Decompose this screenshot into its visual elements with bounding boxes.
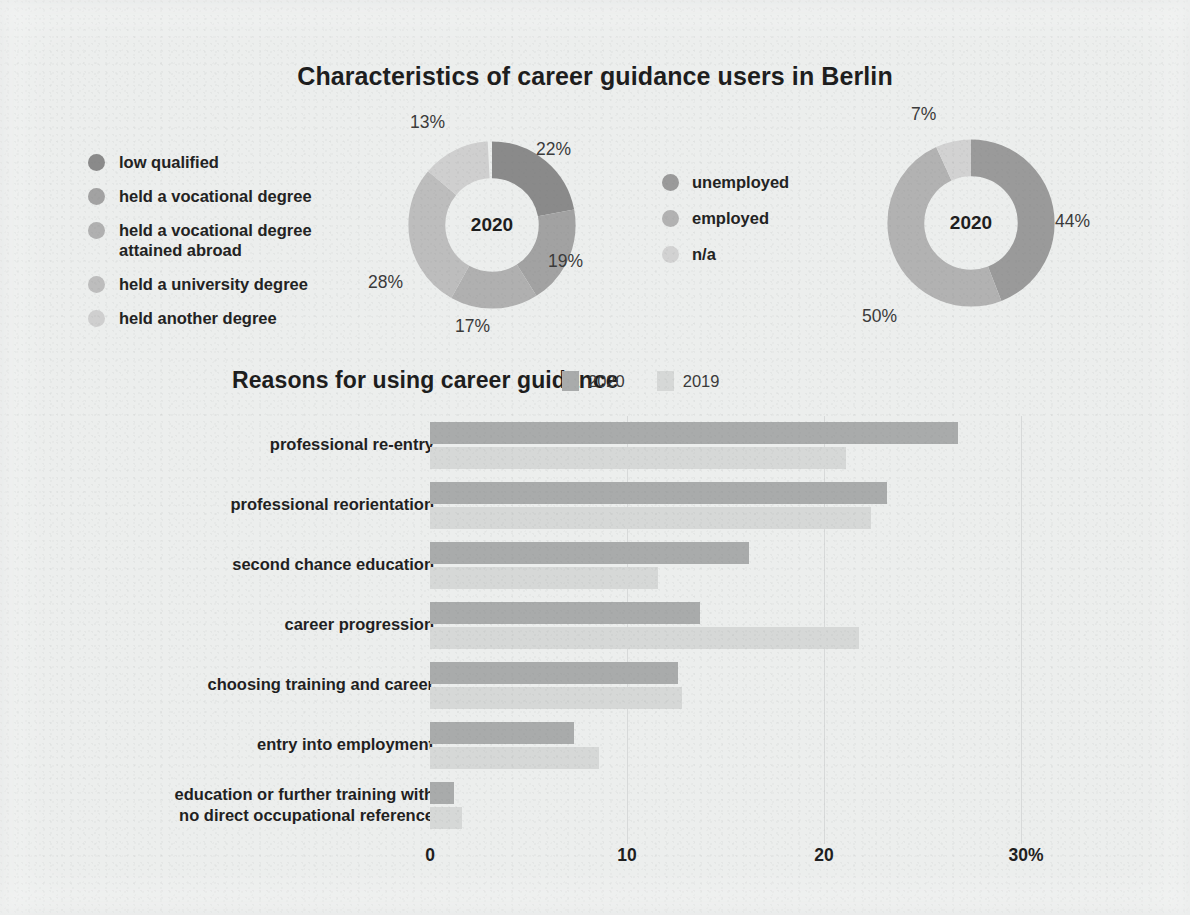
x-axis-tick-30: 30%: [1008, 845, 1043, 866]
legend-swatch-icon: [662, 210, 679, 227]
bar-2020: [430, 482, 887, 504]
donut-value-low-qualified: 22%: [536, 139, 571, 160]
bar-legend-label: 2019: [683, 372, 720, 391]
legend-swatch-icon: [662, 174, 679, 191]
bar-legend-label: 2020: [588, 372, 625, 391]
legend-swatch-icon: [662, 246, 679, 263]
legend-item-label: held a vocational degree attained abroad: [119, 220, 378, 260]
bar-2019: [430, 567, 658, 589]
bar-category-label: second chance education: [14, 554, 434, 575]
x-axis-tick-0: 0: [425, 845, 435, 866]
donut-value-vocational-degree: 19%: [548, 251, 583, 272]
bar-category-label: career progression: [14, 614, 434, 635]
legend-swatch-icon: [88, 154, 105, 171]
bar-2019: [430, 627, 859, 649]
bar-category-label-text: second chance education: [232, 555, 434, 573]
donut-center-year-label: 2020: [406, 214, 578, 236]
bar-2020: [430, 782, 454, 804]
legend-swatch-icon: [657, 371, 674, 391]
bar-2020: [430, 422, 958, 444]
legend-item-label: employed: [692, 208, 769, 228]
donut-center-year-label: 2020: [885, 212, 1057, 234]
bar-category-label-text-line2: no direct occupational reference: [179, 806, 434, 824]
legend-item-another-degree: held another degree: [88, 308, 378, 328]
legend-item-employed: employed: [662, 208, 862, 228]
bar-category-label: education or further training with no di…: [14, 784, 434, 826]
bar-legend-item-2019: 2019: [657, 371, 720, 391]
x-axis-tick-10: 10: [617, 845, 636, 866]
donut-chart-qualification: 2020: [406, 139, 578, 311]
donut-value-another-degree: 13%: [410, 112, 445, 133]
bar-2019: [430, 687, 682, 709]
x-axis-tick-20: 20: [814, 845, 833, 866]
legend-employment-status: unemployed employed n/a: [662, 172, 862, 280]
bar-2020: [430, 602, 700, 624]
gridline-30: [1021, 416, 1022, 844]
bar-2020: [430, 662, 678, 684]
legend-item-low-qualified: low qualified: [88, 152, 378, 172]
legend-swatch-icon: [88, 310, 105, 327]
legend-item-label: held another degree: [119, 308, 277, 328]
legend-item-vocational-degree-abroad: held a vocational degree attained abroad: [88, 220, 378, 260]
legend-item-label: held a vocational degree: [119, 186, 312, 206]
bar-2019: [430, 747, 599, 769]
bar-2020: [430, 542, 749, 564]
donut-value-na: 7%: [911, 104, 936, 125]
legend-item-na: n/a: [662, 244, 862, 264]
legend-item-university-degree: held a university degree: [88, 274, 378, 294]
legend-swatch-icon: [88, 276, 105, 293]
donut-value-vocational-degree-abroad: 17%: [455, 316, 490, 337]
bar-category-label-text: professional re-entry: [270, 435, 434, 453]
bar-chart-title: Reasons for using career guidance: [232, 367, 619, 394]
legend-qualification: low qualified held a vocational degree h…: [88, 152, 378, 342]
bar-2019: [430, 807, 462, 829]
bar-category-label-text: professional reorientation: [230, 495, 434, 513]
donut-value-university-degree: 28%: [368, 272, 403, 293]
bar-category-label-text: career progression: [285, 615, 434, 633]
bar-category-label: choosing training and career: [14, 674, 434, 695]
legend-item-unemployed: unemployed: [662, 172, 862, 192]
legend-item-label: low qualified: [119, 152, 219, 172]
bar-category-label-text: choosing training and career: [208, 675, 434, 693]
bar-2019: [430, 447, 846, 469]
legend-swatch-icon: [88, 188, 105, 205]
legend-item-label: held a university degree: [119, 274, 308, 294]
legend-item-vocational-degree: held a vocational degree: [88, 186, 378, 206]
donut-value-employed: 50%: [862, 306, 897, 327]
donut-chart-employment: 2020: [885, 137, 1057, 309]
bar-2020: [430, 722, 574, 744]
bar-2019: [430, 507, 871, 529]
bar-category-label: professional reorientation: [14, 494, 434, 515]
bar-legend-item-2020: 2020: [562, 371, 625, 391]
bar-category-label: entry into employment: [14, 734, 434, 755]
bar-category-label: professional re-entry: [14, 434, 434, 455]
x-axis: 0 10 20 30%: [0, 845, 1190, 875]
bar-chart-legend: 2020 2019: [562, 371, 741, 391]
bar-category-label-text: entry into employment: [257, 735, 434, 753]
bar-chart: 2020 2019 professional re-entry professi: [0, 404, 1190, 874]
page-title: Characteristics of career guidance users…: [0, 62, 1190, 91]
legend-swatch-icon: [562, 371, 579, 391]
legend-item-label: unemployed: [692, 172, 789, 192]
legend-item-label: n/a: [692, 244, 716, 264]
infographic-canvas: Characteristics of career guidance users…: [0, 0, 1190, 915]
bar-category-label-text: education or further training with: [175, 785, 434, 803]
donut-value-unemployed: 44%: [1055, 211, 1090, 232]
legend-swatch-icon: [88, 222, 105, 239]
